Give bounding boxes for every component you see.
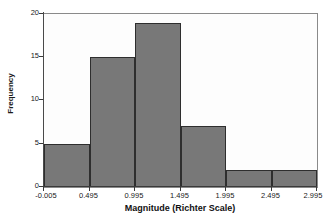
x-tick-label: 2.995 [304,191,323,200]
histogram-bar [135,23,181,187]
histogram-bar [226,170,272,187]
y-axis-title: Frequency [0,0,20,186]
plot-area [43,13,318,188]
y-tick-label: 20 [31,8,39,18]
y-axis-line [43,12,44,187]
x-axis-title: Magnitude (Richter Scale) [43,203,317,213]
x-tick-label: 1.495 [170,191,189,200]
x-tick-label: 1.995 [216,191,235,200]
y-tick-label: 10 [31,94,39,104]
y-axis-title-label: Frequency [6,73,15,113]
x-tick-label: 2.495 [261,191,280,200]
x-tick-label: -0.005 [35,191,56,200]
histogram-bar [44,144,90,187]
histogram-chart: Frequency 20 15 10 5 0 -0.005 0.495 0.99… [0,0,333,222]
x-tick-label: 0.495 [79,191,98,200]
x-tick-label: 0.995 [125,191,144,200]
y-tick-label: 15 [31,51,39,61]
histogram-bar [272,170,318,187]
y-axis-ticks: 20 15 10 5 0 [18,0,39,222]
histogram-bar [181,126,227,187]
histogram-bar [90,57,136,187]
bars-container [44,14,317,187]
